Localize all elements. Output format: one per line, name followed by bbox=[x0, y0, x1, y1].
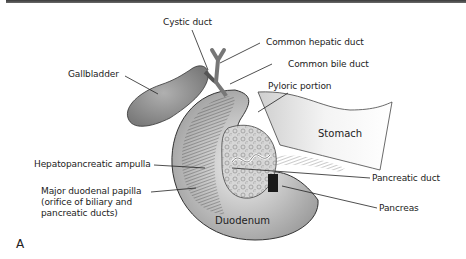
label-common-bile-duct: Common bile duct bbox=[288, 59, 369, 70]
hepatic-duct-shape bbox=[212, 50, 224, 82]
label-cystic-duct: Cystic duct bbox=[163, 17, 212, 28]
label-pancreas: Pancreas bbox=[379, 203, 419, 214]
label-pancreatic-duct: Pancreatic duct bbox=[372, 173, 440, 184]
label-hepatopancreatic-ampulla: Hepatopancreatic ampulla bbox=[34, 159, 151, 170]
label-pyloric-portion: Pyloric portion bbox=[268, 81, 331, 92]
panel-letter: A bbox=[16, 237, 24, 251]
label-common-hepatic-duct: Common hepatic duct bbox=[266, 37, 364, 48]
label-stomach: Stomach bbox=[318, 128, 362, 139]
label-major-duodenal-papilla-line3: pancreatic ducts) bbox=[41, 208, 118, 219]
label-major-duodenal-papilla-line2: (orifice of biliary and bbox=[41, 197, 132, 208]
label-duodenum: Duodenum bbox=[215, 215, 270, 226]
label-major-duodenal-papilla: Major duodenal papilla bbox=[41, 186, 141, 197]
label-gallbladder: Gallbladder bbox=[68, 69, 119, 80]
